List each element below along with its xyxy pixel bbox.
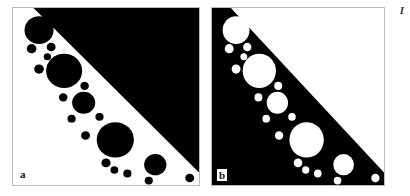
- disk: [80, 82, 89, 90]
- panel-label-a: a: [19, 169, 27, 180]
- panel-a-graphic: [13, 8, 199, 185]
- figure-corner-mark: I: [400, 4, 404, 16]
- disk: [289, 122, 323, 157]
- disk: [275, 131, 283, 139]
- panel-b: b: [211, 7, 385, 186]
- disk: [25, 16, 54, 44]
- disk: [101, 158, 110, 167]
- panel-a: a: [12, 7, 200, 186]
- disk: [34, 64, 44, 73]
- disk: [243, 54, 276, 88]
- disk: [333, 154, 354, 175]
- disk: [302, 166, 309, 173]
- disk: [95, 113, 103, 121]
- disk: [240, 53, 247, 60]
- disk: [371, 174, 379, 182]
- disk: [262, 115, 270, 123]
- disk: [223, 16, 250, 44]
- disk: [110, 166, 118, 173]
- disk: [254, 93, 262, 101]
- disk: [225, 44, 234, 53]
- disk: [46, 54, 82, 88]
- disk: [97, 122, 134, 157]
- disk: [232, 64, 241, 73]
- disk: [47, 43, 56, 51]
- disk: [267, 92, 288, 114]
- disk: [294, 158, 303, 167]
- disk: [243, 43, 251, 51]
- disk: [144, 154, 166, 175]
- disk: [314, 170, 322, 178]
- disk: [145, 177, 153, 185]
- disk: [59, 93, 68, 101]
- disk: [274, 82, 282, 90]
- disk: [44, 53, 51, 60]
- disk: [27, 44, 37, 53]
- disk: [123, 170, 131, 178]
- disk: [185, 174, 194, 182]
- disk: [67, 115, 75, 123]
- disk: [72, 92, 95, 114]
- disk: [288, 113, 296, 121]
- panel-label-b: b: [217, 169, 227, 181]
- disk: [334, 177, 342, 185]
- panel-b-graphic: [212, 8, 384, 185]
- disk: [81, 131, 90, 139]
- figure-root: a b I: [0, 0, 410, 196]
